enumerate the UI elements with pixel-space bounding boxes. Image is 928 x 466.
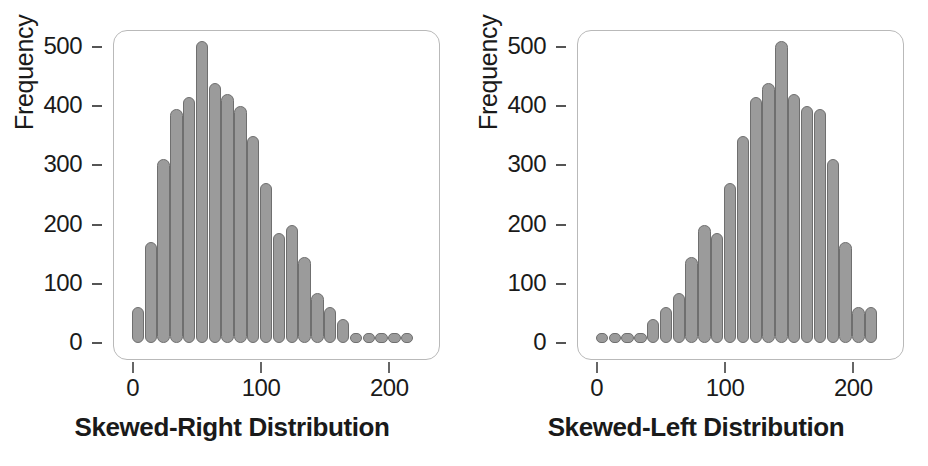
histogram-bar: [827, 159, 839, 343]
histogram-bar: [865, 307, 877, 343]
histogram-bar: [196, 41, 208, 343]
histogram-bar: [839, 242, 851, 343]
histogram-bar: [596, 333, 608, 343]
y-tick-mark: [556, 46, 566, 48]
histogram-bar: [170, 109, 182, 343]
histogram-bar: [157, 159, 169, 343]
histogram-bar: [401, 333, 413, 343]
plot-area-right: [596, 47, 886, 343]
y-tick-label: 400: [486, 93, 546, 117]
y-tick-mark: [556, 105, 566, 107]
histogram-bar: [350, 333, 362, 343]
x-tick-mark: [724, 362, 726, 373]
histogram-bar: [621, 333, 633, 343]
histogram-bar: [273, 233, 285, 343]
histogram-bar: [711, 233, 723, 343]
y-tick-label: 200: [22, 212, 82, 236]
histogram-bar: [673, 293, 685, 343]
histogram-bar: [247, 136, 259, 343]
histogram-bar: [788, 94, 800, 343]
histogram-bar: [260, 183, 272, 343]
y-tick-mark: [92, 283, 102, 285]
x-tick-mark: [260, 362, 262, 373]
y-axis-ticks-right: 0100200300400500: [500, 0, 562, 400]
histogram-bar: [698, 225, 710, 343]
histogram-bar: [762, 83, 774, 343]
x-tick-label: 100: [242, 376, 281, 400]
x-tick-mark: [132, 362, 134, 373]
histogram-bar: [634, 333, 646, 343]
y-tick-label: 300: [486, 152, 546, 176]
y-tick-mark: [556, 283, 566, 285]
histogram-bar: [737, 136, 749, 343]
histogram-bar: [311, 293, 323, 343]
histogram-bar: [363, 333, 375, 343]
y-tick-mark: [92, 342, 102, 344]
histogram-bar: [388, 333, 400, 343]
x-tick-label: 0: [590, 376, 603, 400]
y-tick-mark: [556, 224, 566, 226]
y-tick-mark: [92, 46, 102, 48]
histogram-bar: [298, 257, 310, 343]
histogram-bar: [221, 94, 233, 343]
histogram-bar: [852, 307, 864, 343]
y-tick-label: 100: [22, 271, 82, 295]
y-tick-label: 500: [22, 34, 82, 58]
x-tick-label: 200: [834, 376, 873, 400]
figure-canvas: Frequency 0100200300400500 0100200 Skewe…: [0, 0, 928, 466]
histogram-bar: [750, 97, 762, 343]
histogram-bar: [286, 225, 298, 343]
chart-panel-skewed-right: Frequency 0100200300400500 0100200 Skewe…: [0, 0, 464, 466]
y-tick-label: 100: [486, 271, 546, 295]
x-tick-mark: [852, 362, 854, 373]
histogram-bar: [375, 333, 387, 343]
histogram-bar: [337, 319, 349, 343]
y-tick-label: 0: [486, 330, 546, 354]
histogram-bar: [209, 83, 221, 343]
chart-title-right: Skewed-Left Distribution: [464, 412, 928, 443]
histogram-bar: [814, 109, 826, 343]
histogram-bar: [324, 307, 336, 343]
plot-area-left: [132, 47, 422, 343]
y-tick-mark: [92, 164, 102, 166]
histogram-bar: [145, 242, 157, 343]
histogram-bar: [685, 257, 697, 343]
histogram-bar: [132, 307, 144, 343]
y-tick-label: 400: [22, 93, 82, 117]
y-tick-mark: [556, 164, 566, 166]
y-tick-label: 200: [486, 212, 546, 236]
x-tick-mark: [596, 362, 598, 373]
histogram-bar: [183, 97, 195, 343]
histogram-bar: [801, 106, 813, 343]
y-tick-mark: [92, 224, 102, 226]
x-tick-label: 0: [126, 376, 139, 400]
x-tick-mark: [388, 362, 390, 373]
chart-title-left: Skewed-Right Distribution: [0, 412, 464, 443]
histogram-bar: [775, 41, 787, 343]
histogram-bar: [609, 333, 621, 343]
x-tick-label: 100: [706, 376, 745, 400]
histogram-bar: [660, 307, 672, 343]
histogram-bar: [234, 106, 246, 343]
y-tick-label: 0: [22, 330, 82, 354]
y-tick-label: 500: [486, 34, 546, 58]
y-tick-label: 300: [22, 152, 82, 176]
y-tick-mark: [92, 105, 102, 107]
x-tick-label: 200: [370, 376, 409, 400]
y-axis-ticks-left: 0100200300400500: [36, 0, 98, 400]
histogram-bar: [647, 319, 659, 343]
y-tick-mark: [556, 342, 566, 344]
chart-panel-skewed-left: Frequency 0100200300400500 0100200 Skewe…: [464, 0, 928, 466]
histogram-bar: [724, 183, 736, 343]
